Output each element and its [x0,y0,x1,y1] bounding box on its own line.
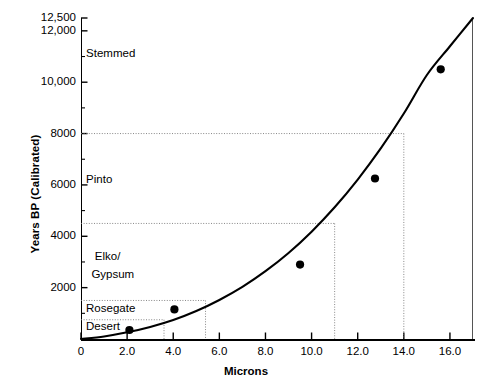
data-point [437,65,445,73]
x-axis-tick-label: 12.0 [336,345,380,357]
data-point [296,260,304,268]
data-point [170,305,178,313]
chart-graphics [0,0,492,390]
y-axis-tick-label: 12,500 [18,12,76,24]
y-axis-tick-label: 4000 [18,230,76,242]
data-point [125,326,133,334]
fit-curve [81,18,473,339]
y-axis-tick-label: 2000 [18,282,76,294]
category-label: Stemmed [86,47,135,61]
x-axis-tick-label: 8.0 [243,345,287,357]
x-axis-tick-label: 4.0 [151,345,195,357]
x-axis-tick-label: 2.0 [105,345,149,357]
category-label: Desert [86,320,120,334]
category-label: Gypsum [91,268,134,282]
x-axis-tick-label: 6.0 [197,345,241,357]
category-label: Elko/ [95,250,121,264]
y-axis-tick-label: 10,000 [18,76,76,88]
x-axis-tick-label: 10.0 [290,345,334,357]
y-axis-tick-label: 12,000 [18,25,76,37]
x-axis-tick-label: 16.0 [428,345,472,357]
x-axis-tick-label: 0 [59,345,103,357]
chart-figure: Years BP (Calibrated) Microns 12,50012,0… [0,0,492,390]
x-axis-tick-label: 14.0 [382,345,426,357]
category-label: Pinto [86,173,112,187]
y-axis-tick-label: 8000 [18,128,76,140]
category-label: Rosegate [86,302,135,316]
y-axis-tick-label: 6000 [18,179,76,191]
data-point [371,174,379,182]
